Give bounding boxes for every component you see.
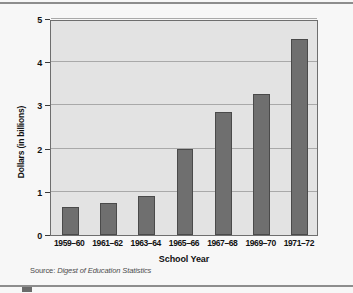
bar-series (51, 21, 317, 235)
y-tick-label: 2 (37, 145, 42, 155)
chart-page: Dollars (in billions) 012345 1959–601961… (0, 0, 353, 293)
top-rule (0, 2, 353, 4)
y-tick-label: 0 (37, 231, 42, 241)
x-tick-label: 1961–62 (92, 238, 122, 248)
x-tick-label: 1967–68 (207, 238, 237, 248)
gridline (51, 18, 317, 19)
source-note: Source: Digest of Education Statistics (30, 266, 151, 275)
x-tick-label: 1959–60 (54, 238, 84, 248)
y-tick-label: 4 (37, 58, 42, 68)
bar (62, 207, 79, 235)
source-prefix: Source: (30, 266, 55, 275)
bar (291, 39, 308, 235)
y-axis-labels: 012345 (0, 20, 50, 236)
bar (253, 94, 270, 235)
x-tick-label: 1969–70 (245, 238, 275, 248)
bottom-rule (0, 285, 353, 287)
y-tick-label: 5 (37, 15, 42, 25)
source-title: Digest of Education Statistics (57, 266, 151, 275)
bar (215, 112, 232, 235)
bar-chart: Dollars (in billions) 012345 1959–601961… (0, 8, 353, 283)
plot-area (50, 20, 318, 236)
corner-marker (22, 287, 32, 292)
bar (100, 203, 117, 235)
y-tick-label: 1 (37, 188, 42, 198)
x-axis-labels: 1959–601961–621963–641965–661967–681969–… (50, 238, 318, 252)
bar (138, 196, 155, 235)
y-tick-label: 3 (37, 101, 42, 111)
x-tick-label: 1965–66 (169, 238, 199, 248)
x-axis-title: School Year (50, 254, 318, 264)
x-tick-label: 1963–64 (131, 238, 161, 248)
bar (177, 149, 194, 235)
x-tick-label: 1971–72 (284, 238, 314, 248)
